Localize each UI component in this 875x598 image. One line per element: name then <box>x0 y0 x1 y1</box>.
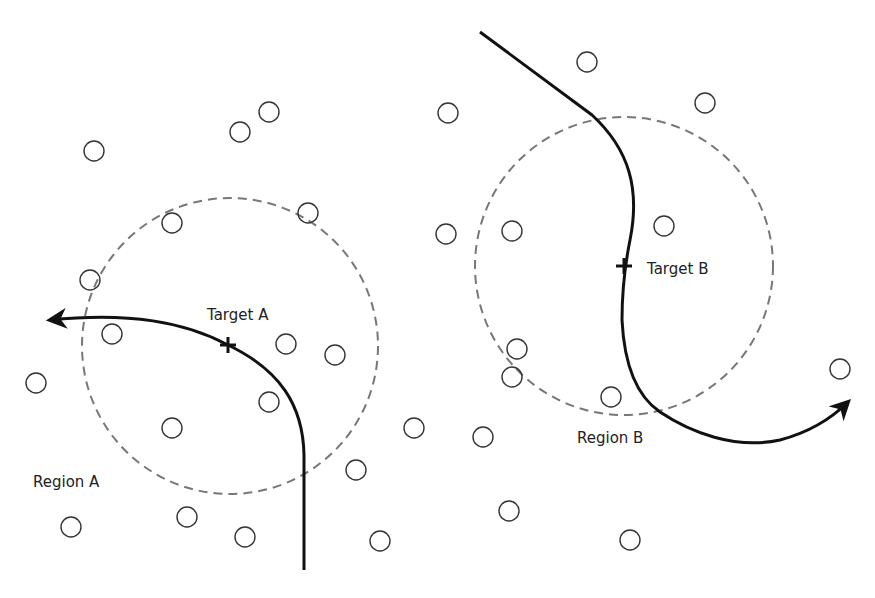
node-circle <box>26 373 46 393</box>
trajectory-a-arrow <box>50 317 304 570</box>
node-circle <box>438 103 458 123</box>
diagram-svg: Target A Target B Region A Region B <box>0 0 875 598</box>
node-circle <box>404 418 424 438</box>
node-circle <box>370 531 390 551</box>
region-a-label: Region A <box>33 473 100 491</box>
node-circle <box>298 203 318 223</box>
node-group <box>26 52 850 551</box>
node-circle <box>61 517 81 537</box>
node-circle <box>259 392 279 412</box>
target-a-label: Target A <box>206 306 269 324</box>
node-circle <box>177 507 197 527</box>
node-circle <box>230 122 250 142</box>
trajectory-b-arrow <box>480 32 848 443</box>
node-circle <box>473 427 493 447</box>
node-circle <box>325 345 345 365</box>
node-circle <box>654 216 674 236</box>
target-b-label: Target B <box>646 260 708 278</box>
node-circle <box>695 93 715 113</box>
region-b-label: Region B <box>577 429 643 447</box>
node-circle <box>436 224 456 244</box>
node-circle <box>346 460 366 480</box>
node-circle <box>84 141 104 161</box>
node-circle <box>502 221 522 241</box>
node-circle <box>162 213 182 233</box>
node-circle <box>235 527 255 547</box>
node-circle <box>162 418 182 438</box>
target-b-cross-icon <box>616 258 632 274</box>
node-circle <box>502 367 522 387</box>
node-circle <box>507 339 527 359</box>
node-circle <box>102 324 122 344</box>
node-circle <box>601 387 621 407</box>
node-circle <box>276 334 296 354</box>
node-circle <box>259 102 279 122</box>
node-circle <box>830 359 850 379</box>
node-circle <box>577 52 597 72</box>
node-circle <box>620 530 640 550</box>
node-circle <box>499 501 519 521</box>
diagram-canvas: Target A Target B Region A Region B <box>0 0 875 598</box>
target-a-cross-icon <box>220 337 236 353</box>
